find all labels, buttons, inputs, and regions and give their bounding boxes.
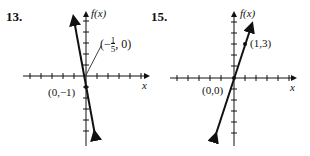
graph-15-axes: [170, 14, 294, 146]
graph-13-intercept-label: (−15, 0): [100, 36, 131, 54]
graphs-canvas: [0, 0, 310, 156]
graph-13-point-label: (0,−1): [48, 86, 75, 98]
graph-15-origin-label: (0,0): [202, 84, 223, 96]
graph-13-line: [74, 20, 95, 135]
graph-15-ylabel: f(x): [240, 7, 255, 19]
graph-15-point-label: (1,3): [250, 37, 271, 49]
graph-15-xlabel: x: [290, 81, 295, 93]
graph-13-xlabel: x: [142, 79, 147, 91]
graph-13-ylabel: f(x): [91, 7, 106, 19]
